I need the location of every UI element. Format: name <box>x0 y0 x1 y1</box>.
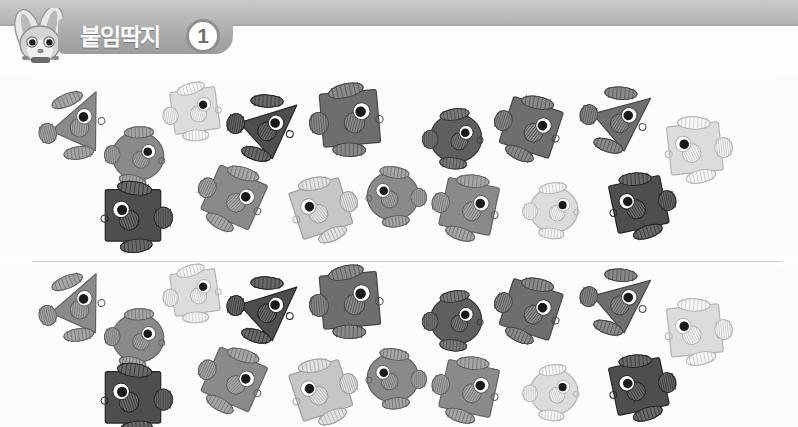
fish-sticker[interactable] <box>107 125 169 187</box>
fish-sticker[interactable] <box>602 168 676 242</box>
fish-sticker[interactable] <box>428 292 484 348</box>
fish-sticker[interactable] <box>365 350 421 406</box>
fish-sticker[interactable] <box>528 366 580 418</box>
fish-sticker[interactable] <box>100 365 166 427</box>
sticker-sheet-page: 붙임딱지 1 02 <box>0 0 798 427</box>
fish-sticker[interactable] <box>107 307 169 369</box>
panel-divider <box>32 261 782 262</box>
fish-sticker[interactable] <box>528 184 580 236</box>
fish-sticker[interactable] <box>100 183 166 249</box>
fish-sticker[interactable] <box>661 115 729 183</box>
fish-sticker[interactable] <box>432 352 506 426</box>
fish-sticker[interactable] <box>165 81 226 142</box>
fish-sticker[interactable] <box>165 263 226 324</box>
title-number-badge: 1 <box>186 19 220 53</box>
page-title: 붙임딱지 <box>80 22 190 52</box>
fish-sticker[interactable] <box>228 273 300 345</box>
fish-sticker[interactable] <box>580 264 654 338</box>
fish-sticker[interactable] <box>228 91 300 163</box>
fish-sticker[interactable] <box>428 110 484 166</box>
fish-sticker[interactable] <box>661 297 729 365</box>
fish-sticker[interactable] <box>313 82 387 156</box>
fish-sticker[interactable] <box>365 168 421 224</box>
fish-sticker[interactable] <box>432 170 506 244</box>
fish-sticker[interactable] <box>313 264 387 338</box>
fish-sticker[interactable] <box>602 350 676 424</box>
fish-sticker[interactable] <box>580 82 654 156</box>
